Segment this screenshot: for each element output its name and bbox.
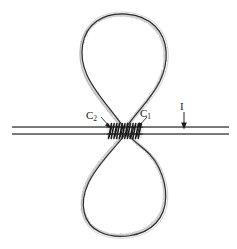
diagram-canvas [0,0,237,249]
label-c2-subscript: 2 [93,114,97,123]
label-c1-subscript: 1 [147,112,151,121]
label-c1: C1 [140,108,151,119]
label-current: I [180,101,184,112]
label-c2: C2 [86,110,97,121]
coil-winding [107,124,144,139]
leader-c2 [101,117,111,128]
figure-container: C2 C1 I [0,0,237,249]
